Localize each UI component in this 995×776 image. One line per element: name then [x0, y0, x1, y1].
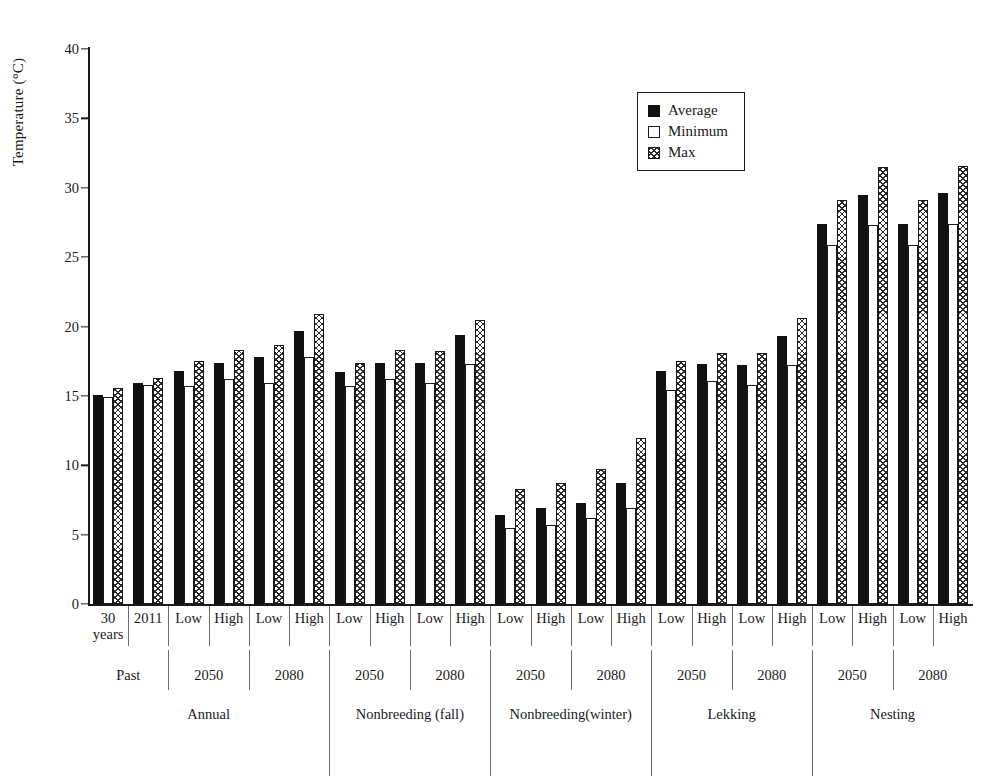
- bar-group: [852, 49, 892, 604]
- bar-group: [209, 49, 249, 604]
- x-period-label: 2080: [732, 650, 812, 692]
- bar-max: [918, 200, 928, 604]
- bar-max: [153, 378, 163, 604]
- tier-separator: [732, 650, 733, 690]
- tier-separator: [209, 606, 210, 646]
- x-period-label: 2080: [410, 650, 490, 692]
- y-tick-mark: [81, 187, 88, 188]
- x-category-label: Low: [249, 606, 289, 650]
- legend-swatch-max: [648, 147, 660, 159]
- tier-separator: [651, 606, 652, 646]
- tier-separator: [852, 606, 853, 646]
- x-period-label-line: 2050: [677, 667, 706, 683]
- bar-group: [88, 49, 128, 604]
- bar-max: [435, 351, 445, 604]
- bar-minimum: [304, 357, 314, 604]
- x-period-label-line: 2080: [436, 667, 465, 683]
- bar-minimum: [787, 365, 797, 604]
- x-period-label: 2050: [168, 650, 248, 692]
- x-period-label: 2050: [651, 650, 731, 692]
- x-period-label: Past: [88, 650, 168, 692]
- tier-separator: [732, 606, 733, 646]
- bar-max: [837, 200, 847, 604]
- legend-item-average: Average: [648, 100, 728, 121]
- bar-minimum: [345, 386, 355, 604]
- tier-separator: [531, 606, 532, 646]
- bar-max: [274, 345, 284, 604]
- x-season-label: Nonbreeding(winter): [490, 692, 651, 752]
- x-period-label-line: 2050: [194, 667, 223, 683]
- x-period-label-line: 2080: [918, 667, 947, 683]
- x-period-label: 2080: [249, 650, 329, 692]
- bar-average: [777, 336, 787, 604]
- x-category-label-line: Low: [497, 610, 524, 626]
- legend-label-max: Max: [668, 145, 696, 160]
- tier-separator: [168, 650, 169, 690]
- legend-swatch-minimum: [648, 126, 660, 138]
- bar-minimum: [666, 390, 676, 604]
- y-tick-mark: [81, 256, 88, 257]
- x-season-label: Lekking: [651, 692, 812, 752]
- bar-average: [576, 503, 586, 604]
- tier-separator: [812, 606, 813, 646]
- x-period-label-line: 2050: [516, 667, 545, 683]
- bar-max: [556, 483, 566, 604]
- chart-legend: Average Minimum Max: [637, 92, 745, 171]
- bar-average: [656, 371, 666, 604]
- x-category-label: 30 years: [88, 606, 128, 650]
- bar-average: [858, 195, 868, 604]
- tier-separator: [450, 606, 451, 646]
- x-axis-labels: 30 years2011LowHighLowHighLowHighLowHigh…: [88, 606, 973, 766]
- x-category-label-line: High: [456, 610, 485, 626]
- bar-average: [93, 395, 103, 605]
- bar-group: [410, 49, 450, 604]
- tier-separator: [893, 606, 894, 646]
- bar-group: [168, 49, 208, 604]
- legend-label-minimum: Minimum: [668, 124, 728, 139]
- x-category-label: Low: [168, 606, 208, 650]
- x-category-label: High: [531, 606, 571, 650]
- tier-separator: [893, 650, 894, 690]
- y-axis-label: Temperature (°C): [10, 2, 27, 222]
- x-category-label: Low: [732, 606, 772, 650]
- x-season-label-line: Nesting: [870, 706, 915, 722]
- bar-group: [531, 49, 571, 604]
- bar-average: [455, 335, 465, 604]
- legend-item-minimum: Minimum: [648, 121, 728, 142]
- tier-separator: [772, 606, 773, 646]
- bar-minimum: [546, 525, 556, 604]
- x-category-label: Low: [490, 606, 530, 650]
- tier-separator: [249, 650, 250, 690]
- x-season-label: Nonbreeding (fall): [329, 692, 490, 752]
- tier-separator: [692, 606, 693, 646]
- x-category-label-line: High: [536, 610, 565, 626]
- x-category-label: High: [611, 606, 651, 650]
- x-category-label-line: Low: [256, 610, 283, 626]
- x-category-label: High: [370, 606, 410, 650]
- tier-separator: [370, 606, 371, 646]
- legend-swatch-average: [648, 105, 660, 117]
- x-category-label: Low: [651, 606, 691, 650]
- bar-minimum: [908, 245, 918, 604]
- bar-average: [174, 371, 184, 604]
- plot-area: 0510152025303540: [88, 49, 973, 604]
- bar-average: [495, 515, 505, 604]
- y-tick-mark: [81, 395, 88, 396]
- x-category-label-line: Low: [417, 610, 444, 626]
- tier-separator: [249, 606, 250, 646]
- x-period-label-line: 2050: [355, 667, 384, 683]
- bar-max: [515, 489, 525, 604]
- bar-average: [536, 508, 546, 604]
- x-period-label-line: 2050: [838, 667, 867, 683]
- x-category-label-line: High: [214, 610, 243, 626]
- x-category-label-line: Low: [578, 610, 605, 626]
- y-tick-mark: [81, 48, 88, 49]
- bar-average: [616, 483, 626, 604]
- x-category-label: High: [772, 606, 812, 650]
- x-category-label-line: Low: [739, 610, 766, 626]
- tier-separator: [490, 606, 491, 646]
- tier-separator: [128, 606, 129, 646]
- bar-max: [314, 314, 324, 604]
- bar-minimum: [948, 224, 958, 604]
- x-category-label-line: Low: [900, 610, 927, 626]
